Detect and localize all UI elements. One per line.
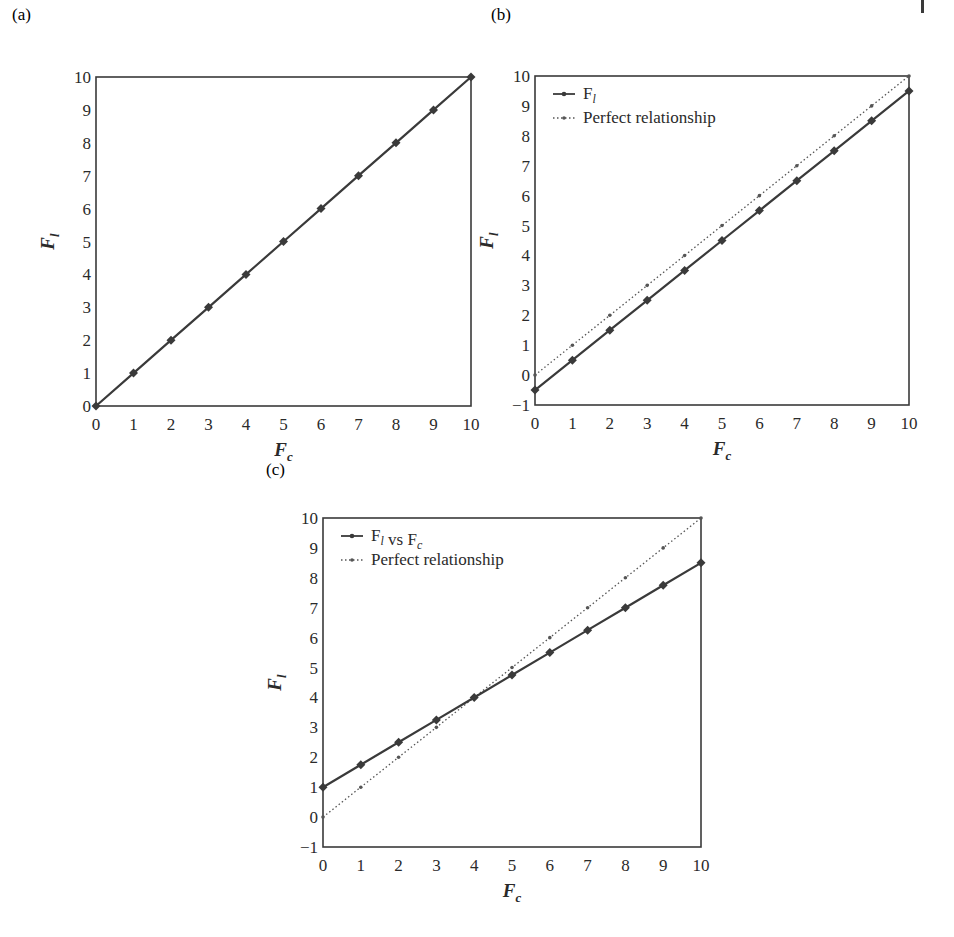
data-point-marker <box>394 738 403 747</box>
y-tick-label: 5 <box>83 233 92 252</box>
y-tick-label: 8 <box>522 127 531 146</box>
y-tick-label: 5 <box>522 217 531 236</box>
x-tick-label: 3 <box>432 856 441 875</box>
data-point-marker <box>545 648 554 657</box>
y-tick-label: 6 <box>310 629 319 648</box>
y-tick-label: 2 <box>83 331 92 350</box>
data-point-marker <box>510 666 514 670</box>
y-tick-label: −1 <box>300 838 318 857</box>
x-tick-label: 6 <box>317 415 326 434</box>
x-axis-label: Fc <box>712 438 732 463</box>
data-point-marker <box>720 224 724 228</box>
x-tick-label: 0 <box>531 414 540 433</box>
data-point-marker <box>683 254 687 258</box>
chart-panel-a: (a)012345678910012345678910FcFl <box>12 5 480 464</box>
data-point-marker <box>621 603 630 612</box>
y-tick-label: 3 <box>83 298 92 317</box>
x-tick-label: 10 <box>901 414 918 433</box>
data-point-marker <box>571 343 575 347</box>
y-tick-label: 4 <box>83 265 92 284</box>
x-tick-label: 5 <box>718 414 727 433</box>
legend-label: Fl vs Fc <box>371 526 423 552</box>
y-tick-label: 6 <box>83 200 92 219</box>
x-tick-label: 6 <box>546 856 555 875</box>
data-point-marker <box>661 546 665 550</box>
legend-entry-fl: Fl <box>553 84 596 106</box>
y-tick-label: 9 <box>83 101 92 120</box>
x-tick-label: 9 <box>429 415 438 434</box>
data-point-marker <box>397 755 401 759</box>
x-tick-label: 4 <box>242 415 251 434</box>
y-tick-label: 6 <box>522 187 531 206</box>
x-tick-label: 10 <box>693 856 710 875</box>
x-tick-label: 5 <box>279 415 288 434</box>
x-tick-label: 3 <box>643 414 652 433</box>
y-axis-label: Fl <box>264 674 289 692</box>
x-tick-label: 7 <box>583 856 592 875</box>
x-tick-label: 4 <box>680 414 689 433</box>
x-tick-label: 10 <box>463 415 480 434</box>
legend-label: Perfect relationship <box>583 108 716 127</box>
y-tick-label: 3 <box>310 718 319 737</box>
panel-label: (b) <box>491 5 511 24</box>
data-point-marker <box>608 313 612 317</box>
data-point-marker <box>319 783 328 792</box>
data-point-marker <box>508 671 517 680</box>
data-point-marker <box>870 104 874 108</box>
x-tick-label: 8 <box>621 856 630 875</box>
data-point-marker <box>832 134 836 138</box>
data-point-marker <box>586 606 590 610</box>
y-tick-label: 0 <box>310 808 319 827</box>
data-point-marker <box>583 626 592 635</box>
y-tick-label: 4 <box>310 688 319 707</box>
legend-label: Fl <box>583 84 596 106</box>
y-tick-label: 10 <box>74 68 91 87</box>
y-tick-label: 8 <box>310 569 319 588</box>
x-tick-label: 0 <box>92 415 101 434</box>
x-tick-label: 9 <box>659 856 668 875</box>
data-point-marker <box>356 760 365 769</box>
x-tick-label: 7 <box>793 414 802 433</box>
data-point-marker <box>533 373 537 377</box>
x-tick-label: 1 <box>568 414 577 433</box>
y-tick-label: 2 <box>310 748 319 767</box>
data-point-marker <box>699 516 703 520</box>
y-axis-label: Fl <box>476 232 501 250</box>
y-tick-label: 8 <box>83 134 92 153</box>
x-tick-label: 2 <box>394 856 403 875</box>
x-tick-label: 0 <box>319 856 328 875</box>
data-point-marker <box>907 74 911 78</box>
legend-entry-perfect: Perfect relationship <box>553 108 716 127</box>
y-tick-label: 7 <box>522 157 531 176</box>
x-tick-label: 8 <box>392 415 401 434</box>
x-tick-label: 3 <box>204 415 213 434</box>
y-tick-label: 4 <box>522 246 531 265</box>
y-tick-label: 7 <box>83 167 92 186</box>
x-tick-label: 9 <box>867 414 876 433</box>
y-tick-label: 10 <box>513 67 530 86</box>
y-tick-label: 7 <box>310 599 319 618</box>
y-tick-label: 3 <box>522 276 531 295</box>
chart-panel-b: (b)012345678910−1012345678910FcFlFlPerfe… <box>476 5 918 463</box>
y-tick-label: 9 <box>522 97 531 116</box>
y-tick-label: 10 <box>301 509 318 528</box>
legend-entry-perfect: Perfect relationship <box>341 550 504 569</box>
panel-label: (c) <box>266 460 285 479</box>
data-point-marker <box>359 785 363 789</box>
legend-entry-fl: Fl vs Fc <box>341 526 423 552</box>
y-tick-label: −1 <box>512 396 530 415</box>
x-tick-label: 1 <box>357 856 366 875</box>
y-axis-label: Fl <box>37 233 62 251</box>
data-point-marker <box>624 576 628 580</box>
panel-label: (a) <box>12 5 31 24</box>
x-tick-label: 1 <box>129 415 138 434</box>
y-tick-label: 0 <box>83 397 92 416</box>
data-point-marker <box>435 726 439 730</box>
data-point-marker <box>758 194 762 198</box>
data-point-marker <box>321 815 325 819</box>
data-point-marker <box>659 581 668 590</box>
legend-label: Perfect relationship <box>371 550 504 569</box>
data-point-marker <box>432 715 441 724</box>
chart-panel-c: (c)012345678910−1012345678910FcFlFl vs F… <box>264 460 710 905</box>
y-tick-label: 5 <box>310 659 319 678</box>
